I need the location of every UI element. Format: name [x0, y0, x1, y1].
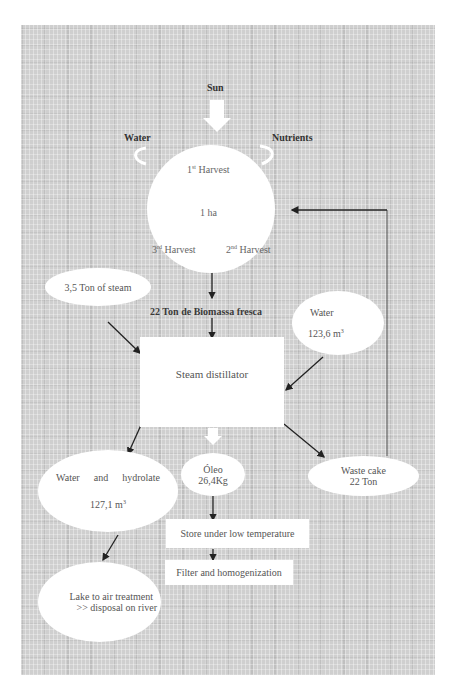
steam-distillator-label: Steam distillator: [176, 368, 248, 380]
field-area-label: 1 ha: [200, 207, 217, 218]
hydrolate-output-node: Water and hydrolate 127,1 m3: [38, 450, 178, 532]
water-input-value-text: 123,6 m: [308, 328, 341, 339]
waste-value: 22 Ton: [350, 476, 378, 487]
steam-input-label: 3,5 Ton of steam: [65, 282, 132, 293]
oil-value: 26,4Kg: [198, 475, 228, 486]
lake-line-1: Lake to air treatment: [69, 591, 153, 602]
nutrients-label: Nutrients: [272, 132, 313, 143]
harvest-1-sup: st: [192, 164, 196, 170]
harvest-1-text: Harvest: [199, 164, 230, 175]
harvest-2-text: Harvest: [240, 244, 271, 255]
oil-label: Óleo: [203, 464, 222, 475]
water-input-value: 123,6 m3: [308, 328, 344, 339]
filter-step-label: Filter and homogenization: [176, 567, 282, 578]
oil-output-node: Óleo 26,4Kg: [181, 453, 245, 496]
hydrolate-label-row: Water and hydrolate: [56, 472, 160, 483]
sun-arrow-icon: [203, 100, 231, 132]
water-input-unit-sup: 3: [341, 328, 344, 334]
lake-destination-node: Lake to air treatment >> disposal on riv…: [38, 562, 161, 642]
hydrolate-label-b: and: [94, 472, 108, 483]
nutrients-curved-arrow-icon: [260, 146, 272, 164]
water-input-label: Water: [310, 307, 334, 318]
steam-input-node: 3,5 Ton of steam: [45, 268, 151, 306]
hydrolate-value-text: 127,1 m: [90, 499, 123, 510]
oil-output-arrow-icon: [204, 428, 222, 445]
sun-label: Sun: [207, 82, 224, 93]
hydrolate-unit-sup: 3: [123, 499, 126, 505]
biomass-label: 22 Ton de Biomassa fresca: [150, 306, 262, 317]
hydrolate-value: 127,1 m3: [90, 499, 126, 510]
water-curved-arrow-icon: [136, 148, 147, 164]
waste-output-node: Waste cake 22 Ton: [308, 456, 419, 496]
harvest-1-label: 1st Harvest: [187, 164, 230, 175]
hydrolate-label-a: Water: [56, 472, 80, 483]
store-step-box: Store under low temperature: [166, 519, 309, 548]
harvest-3-label: 3rd Harvest: [152, 244, 196, 255]
store-step-label: Store under low temperature: [180, 528, 294, 539]
water-input-node: Water 123,6 m3: [292, 291, 384, 355]
water-label: Water: [124, 132, 151, 143]
harvest-2-label: 2nd Harvest: [226, 244, 271, 255]
steam-distillator-box: Steam distillator: [140, 337, 284, 427]
waste-label: Waste cake: [341, 465, 386, 476]
filter-step-box: Filter and homogenization: [165, 560, 293, 585]
hydrolate-label-c: hydrolate: [122, 472, 160, 483]
lake-line-2: >> disposal on river: [77, 602, 157, 613]
harvest-2-sup: nd: [231, 244, 237, 250]
harvest-3-sup: rd: [157, 244, 162, 250]
harvest-3-text: Harvest: [165, 244, 196, 255]
